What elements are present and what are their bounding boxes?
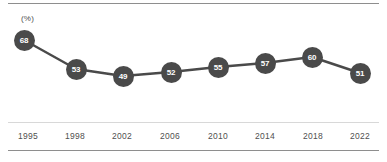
line-chart-figure: (%) 6853495255576051 1995199820022006201… — [0, 0, 387, 162]
x-axis-tick-label: 2014 — [255, 131, 275, 141]
data-point-marker: 52 — [161, 62, 182, 83]
data-point-marker: 49 — [113, 66, 134, 87]
data-point-marker: 53 — [66, 59, 87, 80]
x-axis-tick-label: 2002 — [112, 131, 132, 141]
x-axis-tick-label: 1998 — [65, 131, 85, 141]
data-point-marker: 68 — [14, 30, 35, 51]
data-point-marker: 60 — [302, 47, 323, 68]
data-point-marker: 57 — [255, 53, 276, 74]
x-axis-tick-label: 2022 — [350, 131, 370, 141]
plot-area — [0, 0, 387, 162]
x-axis-tick-label: 2006 — [160, 131, 180, 141]
x-axis-tick-label: 1995 — [18, 131, 38, 141]
x-axis-tick-label: 2010 — [208, 131, 228, 141]
data-point-marker: 55 — [208, 57, 229, 78]
data-point-marker: 51 — [350, 63, 371, 84]
x-axis-tick-label: 2018 — [303, 131, 323, 141]
